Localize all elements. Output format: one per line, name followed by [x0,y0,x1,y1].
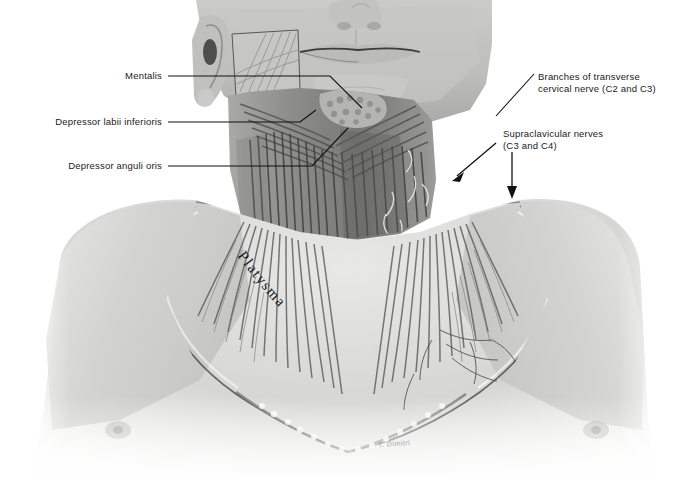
label-depressor-labii-inferioris: Depressor labii inferioris [22,116,162,128]
label-mentalis: Mentalis [62,70,162,82]
label-supraclavicular-nerves: Supraclavicular nerves (C3 and C4) [503,128,603,151]
leader-transverse-cervical [496,74,534,116]
temporal-dissection-flap [232,30,300,96]
svg-text:Platysma: Platysma [235,248,290,310]
label-transverse-cervical-nerve: Branches of transverse cervical nerve (C… [538,71,656,94]
arrow-transverse-cervical [452,143,496,182]
label-depressor-anguli-oris: Depressor anguli oris [42,160,162,172]
arrow-supraclavicular [507,152,517,199]
label-platysma-wrap: Platysma [232,248,342,357]
neck-platysma [228,88,436,242]
illustration-canvas: Mentalis Depressor labii inferioris Depr… [0,0,688,491]
label-platysma: Platysma [235,248,290,310]
